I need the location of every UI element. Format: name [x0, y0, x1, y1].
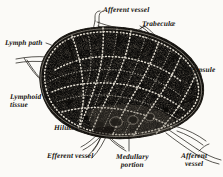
label-lymphoid-tissue-line2: tissue [10, 101, 41, 109]
label-efferent-vessel: Efferent vessel [47, 152, 93, 160]
label-lymph-path: Lymph path [5, 39, 42, 47]
label-medullary-portion-line2: portion [116, 161, 149, 169]
label-lymphoid-tissue: Lymphoid tissue [10, 93, 41, 109]
leader-afferent-bottom [199, 144, 209, 151]
label-capsule: Capsule [190, 66, 215, 74]
label-afferent-vessel-bottom: Afferent vessel [181, 152, 207, 168]
label-hilum: Hilum [54, 124, 74, 132]
label-medullary-portion: Medullary portion [116, 153, 149, 169]
lymph-node-figure: Afferent vessel Trabeculæ Lymph path Cap… [0, 0, 223, 177]
label-afferent-vessel-bottom-line2: vessel [181, 160, 207, 168]
label-afferent-vessel-top: Afferent vessel [103, 6, 149, 14]
label-trabeculae: Trabeculæ [142, 20, 175, 28]
